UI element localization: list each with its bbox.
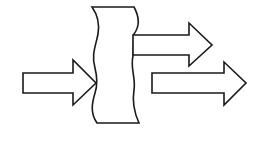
wavy-barrier-block [92, 7, 139, 123]
flow-diagram [0, 0, 253, 141]
output-arrow-top [133, 23, 212, 66]
input-arrow [23, 60, 96, 105]
output-arrow-bottom [152, 62, 246, 105]
